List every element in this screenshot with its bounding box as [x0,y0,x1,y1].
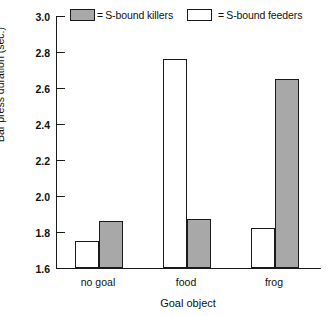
y-axis-tick: 1.8 [57,232,65,233]
bar-no-goal-killers [99,221,123,268]
y-axis-tick: 2.6 [57,88,65,89]
plot-area: 3.02.82.62.42.22.01.81.6 [57,16,321,268]
plot-frame: 3.02.82.62.42.22.01.81.6 [56,16,321,269]
y-axis-label: Bar press duration (sec.) [0,27,6,142]
y-axis-tick-label: 1.6 [35,263,50,275]
y-axis-tick: 1.6 [57,268,65,269]
y-axis-tick-label: 2.8 [35,47,50,59]
bar-no-goal-feeders [75,241,99,268]
y-axis-tick-label: 2.0 [35,191,50,203]
bar-food-feeders [163,59,187,268]
y-axis-tick-label: 3.0 [35,11,50,23]
bar-frog-feeders [251,228,275,268]
y-axis-tick: 2.4 [57,124,65,125]
bar-chart-figure: = S-bound killers = S-bound feeders Bar … [0,0,334,316]
y-axis-tick-label: 2.4 [35,119,50,131]
y-axis-tick: 2.0 [57,196,65,197]
x-axis-label-food: food [176,276,196,288]
y-axis-tick-label: 2.6 [35,83,50,95]
y-axis-tick: 2.8 [57,52,65,53]
x-axis-label-frog: frog [265,276,283,288]
x-axis-label: Goal object [56,297,320,309]
y-axis-tick-label: 2.2 [35,155,50,167]
y-axis-tick: 3.0 [57,16,65,17]
bar-food-killers [187,219,211,268]
bar-frog-killers [275,79,299,268]
y-axis-tick-label: 1.8 [35,227,50,239]
x-axis-label-no-goal: no goal [81,276,115,288]
y-axis-tick: 2.2 [57,160,65,161]
